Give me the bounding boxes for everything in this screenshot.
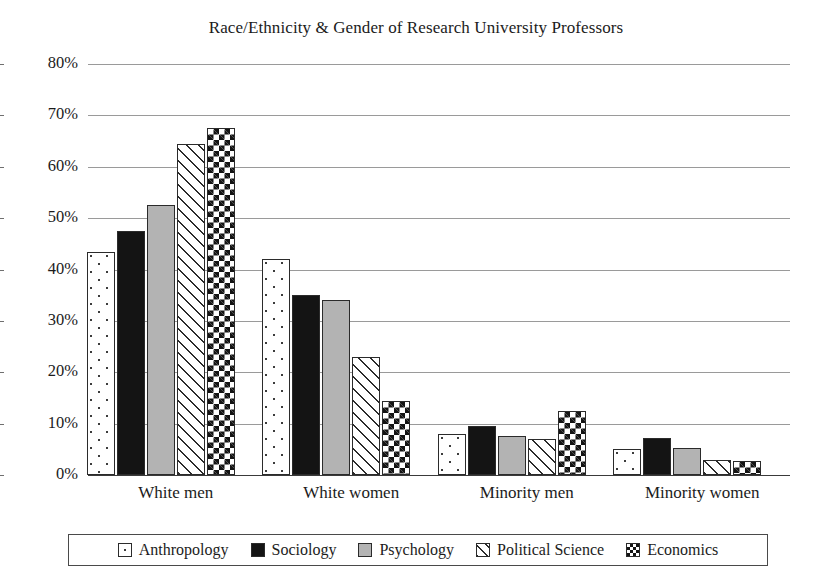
bar-group bbox=[262, 64, 412, 475]
bar[interactable] bbox=[468, 426, 496, 475]
y-axis-tick-mark bbox=[0, 475, 4, 476]
x-axis: White menWhite womenMinority menMinority… bbox=[88, 483, 790, 513]
bar[interactable] bbox=[322, 300, 350, 475]
bar[interactable] bbox=[207, 128, 235, 475]
y-axis-tick-label: 70% bbox=[4, 104, 78, 124]
y-axis-tick-label: 80% bbox=[4, 53, 78, 73]
bar[interactable] bbox=[733, 461, 761, 475]
legend-label: Economics bbox=[647, 541, 718, 559]
axis-baseline bbox=[88, 475, 790, 476]
bar[interactable] bbox=[262, 259, 290, 475]
legend-item[interactable]: Anthropology bbox=[118, 541, 229, 559]
legend-swatch-icon bbox=[626, 543, 640, 557]
y-axis-tick-mark bbox=[0, 64, 4, 65]
bar[interactable] bbox=[382, 401, 410, 475]
bar[interactable] bbox=[177, 144, 205, 475]
y-axis-tick-mark bbox=[0, 321, 4, 322]
x-axis-category-label: Minority men bbox=[439, 483, 615, 503]
x-axis-category-label: White men bbox=[88, 483, 264, 503]
legend-item[interactable]: Sociology bbox=[251, 541, 337, 559]
bar[interactable] bbox=[352, 357, 380, 475]
bar[interactable] bbox=[528, 439, 556, 475]
y-axis-tick-mark bbox=[0, 270, 4, 271]
y-axis-tick-label: 10% bbox=[4, 413, 78, 433]
legend-label: Anthropology bbox=[139, 541, 229, 559]
y-axis-tick-label: 50% bbox=[4, 207, 78, 227]
y-axis-tick-mark bbox=[0, 115, 4, 116]
y-axis-tick-label: 30% bbox=[4, 310, 78, 330]
y-axis: 0%10%20%30%40%50%60%70%80% bbox=[0, 64, 78, 475]
bar-group bbox=[613, 64, 763, 475]
y-axis-tick-mark bbox=[0, 424, 4, 425]
legend-item[interactable]: Political Science bbox=[476, 541, 604, 559]
legend-label: Political Science bbox=[497, 541, 604, 559]
chart-legend: AnthropologySociologyPsychologyPolitical… bbox=[68, 534, 768, 566]
legend-item[interactable]: Economics bbox=[626, 541, 718, 559]
legend-label: Psychology bbox=[379, 541, 454, 559]
y-axis-tick-label: 60% bbox=[4, 156, 78, 176]
legend-item[interactable]: Psychology bbox=[358, 541, 454, 559]
bar[interactable] bbox=[292, 295, 320, 475]
bar[interactable] bbox=[673, 448, 701, 475]
bar[interactable] bbox=[558, 411, 586, 475]
y-axis-tick-mark bbox=[0, 167, 4, 168]
x-axis-category-label: White women bbox=[264, 483, 440, 503]
legend-swatch-icon bbox=[476, 543, 490, 557]
x-axis-category-label: Minority women bbox=[615, 483, 791, 503]
y-axis-tick-label: 20% bbox=[4, 361, 78, 381]
bar[interactable] bbox=[117, 231, 145, 475]
bar[interactable] bbox=[613, 449, 641, 475]
bar[interactable] bbox=[87, 252, 115, 475]
bar-group bbox=[87, 64, 237, 475]
bar[interactable] bbox=[438, 434, 466, 475]
legend-swatch-icon bbox=[118, 543, 132, 557]
y-axis-tick-label: 40% bbox=[4, 259, 78, 279]
bar[interactable] bbox=[147, 205, 175, 475]
bar-group bbox=[438, 64, 588, 475]
legend-swatch-icon bbox=[251, 543, 265, 557]
legend-swatch-icon bbox=[358, 543, 372, 557]
bars-layer bbox=[88, 64, 790, 475]
bar[interactable] bbox=[498, 436, 526, 475]
bar[interactable] bbox=[703, 460, 731, 475]
legend-label: Sociology bbox=[272, 541, 337, 559]
y-axis-tick-mark bbox=[0, 218, 4, 219]
bar-chart: Race/Ethnicity & Gender of Research Univ… bbox=[0, 0, 832, 587]
chart-title: Race/Ethnicity & Gender of Research Univ… bbox=[0, 18, 832, 38]
y-axis-tick-mark bbox=[0, 372, 4, 373]
y-axis-tick-label: 0% bbox=[4, 464, 78, 484]
bar[interactable] bbox=[643, 438, 671, 476]
